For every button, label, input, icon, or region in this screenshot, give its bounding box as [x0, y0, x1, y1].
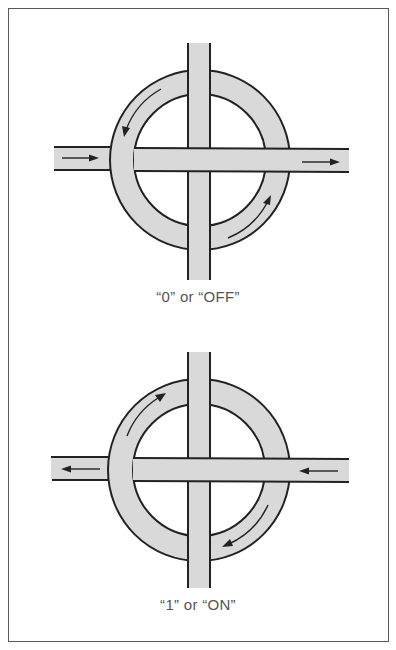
roundabout-diagrams [0, 0, 396, 650]
off-caption: “0” or “OFF” [0, 288, 396, 305]
off-roundabout-diagram [54, 43, 349, 280]
on-roundabout-diagram [51, 352, 349, 588]
on-right-road [133, 458, 349, 482]
off-right-road [134, 148, 349, 172]
on-caption: “1” or “ON” [0, 596, 396, 613]
